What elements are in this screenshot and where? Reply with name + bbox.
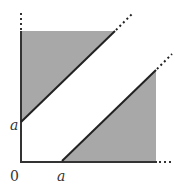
y-tick-label-a: a [10,117,18,133]
origin-label: 0 [10,168,19,184]
upper-diagonal-extension [116,14,132,30]
lower-diagonal-extension [157,54,172,69]
x-tick-label-a: a [57,168,65,184]
diagram-canvas: 0 a a [0,0,180,191]
